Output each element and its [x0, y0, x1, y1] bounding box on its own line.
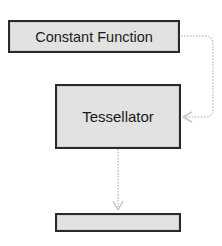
node-label: Tessellator	[82, 108, 154, 125]
node-label: Constant Function	[35, 29, 153, 45]
node-tessellator[interactable]: Tessellator	[55, 84, 181, 149]
node-output[interactable]	[55, 213, 181, 232]
edge-constant-function-to-tessellator	[181, 36, 213, 117]
node-constant-function[interactable]: Constant Function	[8, 20, 180, 53]
arrowhead-icon	[183, 112, 192, 122]
arrowhead-icon	[113, 201, 123, 210]
